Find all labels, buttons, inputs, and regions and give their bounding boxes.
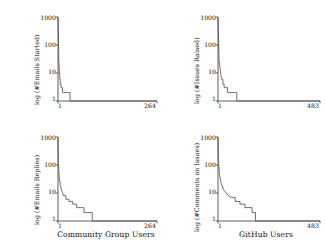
plot-area-comments-on-issues (163, 120, 325, 249)
plot-area-emails-started (0, 0, 162, 120)
panel-comments-on-issues: log (#Comments on Issues) 1000 100 10 1 … (163, 120, 325, 249)
plot-area-issues-raised (163, 0, 325, 120)
figure-root: log (#Emails Started) 1000 100 10 1 1 26… (0, 0, 325, 249)
panel-emails-started: log (#Emails Started) 1000 100 10 1 1 26… (0, 0, 162, 120)
panel-issues-raised: log (#Issues Raised) 1000 100 10 1 1 483 (163, 0, 325, 120)
plot-area-emails-replies (0, 120, 162, 249)
panel-emails-replies: log (#Emails Replies) 1000 100 10 1 1 26… (0, 120, 162, 249)
